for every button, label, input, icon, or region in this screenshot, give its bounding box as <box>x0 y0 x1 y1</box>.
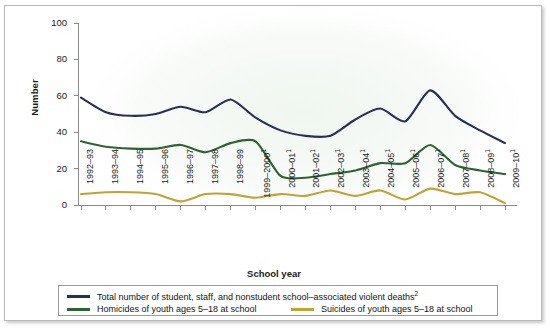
legend-swatch-total <box>67 295 90 298</box>
y-tick-label-0: 0 <box>39 199 67 210</box>
x-tick-label-2001-02: 2001–021 <box>309 149 321 209</box>
x-tick-label-2006-07: 2006–071 <box>434 149 446 209</box>
x-tick-label-2009-10: 2009–101 <box>509 149 521 209</box>
x-tick-label-2008-09: 2008–091 <box>484 149 496 209</box>
legend-swatch-homicides <box>67 308 90 311</box>
y-tick-label-40: 40 <box>39 126 67 137</box>
x-tick-label-2003-04: 2003–041 <box>359 149 371 209</box>
x-tick-label-1997-98: 1997–98 <box>210 149 220 209</box>
legend-swatch-suicides <box>291 308 314 311</box>
legend-item-homicides: Homicides of youth ages 5–18 at school <box>67 302 257 316</box>
x-tick-label-1992-93: 1992–93 <box>85 149 95 209</box>
legend-item-suicides: Suicides of youth ages 5–18 at school <box>291 302 473 316</box>
legend-label-homicides: Homicides of youth ages 5–18 at school <box>97 304 257 314</box>
x-tick-label-1998-99: 1998–99 <box>235 149 245 209</box>
y-tick-label-80: 80 <box>39 53 67 64</box>
legend-label-suicides: Suicides of youth ages 5–18 at school <box>321 304 473 314</box>
chart-legend: Total number of student, staff, and nons… <box>58 285 498 316</box>
plot-area: Number 020406080100 1992–931993–941994–9… <box>5 6 543 266</box>
x-tick-label-2005-06: 2005–061 <box>409 149 421 209</box>
y-tick-label-100: 100 <box>39 17 67 28</box>
x-tick-label-1999-2000: 1999–20001 <box>260 149 272 209</box>
x-tick-label-2007-08: 2007–081 <box>459 149 471 209</box>
x-tick-label-2002-03: 2002–031 <box>334 149 346 209</box>
legend-label-total: Total number of student, staff, and nons… <box>97 290 418 302</box>
x-tick-label-1995-96: 1995–96 <box>160 149 170 209</box>
x-axis-title: School year <box>5 268 543 279</box>
y-axis-title: Number <box>29 63 40 133</box>
x-tick-label-2004-05: 2004–051 <box>384 149 396 209</box>
y-tick-label-20: 20 <box>39 163 67 174</box>
y-tick-label-60: 60 <box>39 90 67 101</box>
chart-figure: Number 020406080100 1992–931993–941994–9… <box>4 5 542 321</box>
x-tick-label-2000-01: 2000–011 <box>285 149 297 209</box>
x-tick-label-1996-97: 1996–97 <box>185 149 195 209</box>
legend-item-total: Total number of student, staff, and nons… <box>67 289 418 303</box>
background-tint <box>90 6 520 216</box>
x-tick-label-1993-94: 1993–94 <box>110 149 120 209</box>
chart-svg <box>5 6 543 266</box>
x-tick-label-1994-95: 1994–95 <box>135 149 145 209</box>
